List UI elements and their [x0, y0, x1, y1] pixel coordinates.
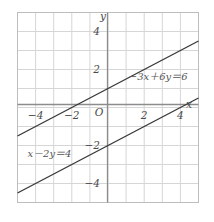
y-tick-label: 4: [92, 25, 100, 37]
equation-label: −3x＋6y＝6: [129, 71, 188, 82]
graph-canvas: −4−22442−2−4 O x y −3x＋6y＝6x－2y＝4: [0, 0, 214, 222]
y-tick-label: 2: [92, 63, 100, 75]
y-tick-label: −4: [85, 177, 100, 189]
equation-label: x－2y＝4: [27, 148, 71, 159]
coordinate-plane-figure: −4−22442−2−4 O x y −3x＋6y＝6x－2y＝4: [0, 0, 214, 222]
x-tick-label: 2: [140, 109, 148, 121]
origin-label: O: [95, 106, 104, 118]
x-tick-label: −4: [28, 109, 43, 121]
x-axis-label: x: [186, 98, 192, 110]
y-tick-label: −2: [85, 139, 101, 151]
x-tick-label: −2: [64, 109, 80, 121]
y-axis-label: y: [99, 10, 107, 22]
x-tick-label: 4: [176, 109, 184, 121]
